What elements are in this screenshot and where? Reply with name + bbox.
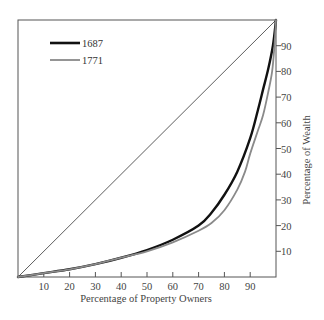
x-tick-label: 20 xyxy=(64,281,75,292)
x-tick-label: 50 xyxy=(142,281,153,292)
x-tick-label: 90 xyxy=(245,281,256,292)
legend: 1687 1771 xyxy=(50,38,103,66)
y-tick-label: 40 xyxy=(281,169,292,180)
lorenz-curve-chart: 102030405060708090 102030405060708090 16… xyxy=(0,0,324,320)
equality-diagonal-line xyxy=(18,20,276,277)
y-tick-label: 10 xyxy=(281,246,292,257)
y-tick-label: 70 xyxy=(281,92,292,103)
legend-label-1687: 1687 xyxy=(82,38,103,49)
x-tick-label: 80 xyxy=(219,281,230,292)
y-tick-label: 50 xyxy=(281,144,292,155)
y-axis-ticks: 102030405060708090 xyxy=(276,41,292,258)
x-tick-label: 30 xyxy=(90,281,101,292)
y-tick-label: 60 xyxy=(281,118,292,129)
legend-label-1771: 1771 xyxy=(82,55,103,66)
x-tick-label: 60 xyxy=(168,281,179,292)
x-tick-label: 40 xyxy=(116,281,127,292)
y-tick-label: 20 xyxy=(281,221,292,232)
y-tick-label: 90 xyxy=(281,41,292,52)
y-tick-label: 30 xyxy=(281,195,292,206)
y-axis-title: Percentage of Wealth xyxy=(301,115,312,205)
x-axis-title: Percentage of Property Owners xyxy=(80,293,212,304)
x-axis-ticks: 102030405060708090 xyxy=(39,272,256,292)
y-tick-label: 80 xyxy=(281,66,292,77)
x-tick-label: 70 xyxy=(193,281,204,292)
x-tick-label: 10 xyxy=(39,281,50,292)
